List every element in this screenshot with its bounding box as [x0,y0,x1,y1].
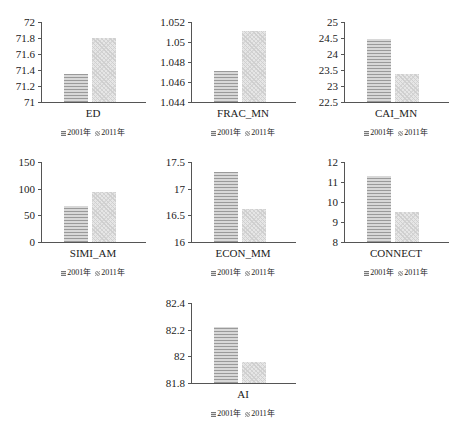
chart-connect: 89101112CONNECT2001年2011年 [303,140,453,280]
legend-item-2001: 2001年 [211,409,241,418]
y-tick [38,215,42,216]
bar-2001 [214,71,238,102]
bar-2011 [242,209,266,242]
legend-label-2001: 2001年 [217,268,241,277]
y-tick-label: 24.5 [302,32,338,44]
legend-swatch-2011-icon [245,131,250,136]
legend-label-2001: 2001年 [217,409,241,418]
y-tick [188,215,192,216]
y-tick [341,202,345,203]
y-tick [38,38,42,39]
legend-swatch-2011-icon [95,131,100,136]
legend-swatch-2011-icon [245,412,250,417]
legend-label-2011: 2011年 [251,409,275,418]
bar-2011 [395,74,419,102]
y-tick-label: 1.046 [149,76,185,88]
bar-2011 [92,192,116,242]
legend-item-2001: 2001年 [364,268,394,277]
plot-area [191,162,296,243]
chart-econ-mm: 1616.51717.5ECON_MM2001年2011年 [150,140,300,280]
legend-swatch-2001-icon [211,271,216,276]
y-tick [38,189,42,190]
y-tick-label: 72 [0,16,35,28]
y-tick [188,42,192,43]
y-tick-label: 12 [302,156,338,168]
chart-simi-am: 050100150SIMI_AM2001年2011年 [0,140,150,280]
x-axis-label: CAI_MN [344,107,448,119]
x-axis-label: ED [41,107,145,119]
legend-swatch-2011-icon [245,271,250,276]
y-tick [38,22,42,23]
x-axis-label: CONNECT [344,247,448,259]
y-tick-label: 82.2 [149,324,185,336]
bar-2011 [395,212,419,242]
legend-swatch-2001-icon [211,131,216,136]
y-tick-label: 9 [302,216,338,228]
legend: 2001年2011年 [41,126,145,137]
y-tick-label: 82 [149,350,185,362]
plot-area [344,22,449,103]
y-tick [188,62,192,63]
y-tick [341,102,345,103]
bar-2001 [367,39,391,102]
legend-swatch-2011-icon [398,131,403,136]
y-tick [341,86,345,87]
legend-swatch-2001-icon [211,412,216,417]
y-tick-label: 71.6 [0,48,35,60]
y-tick-label: 17 [149,183,185,195]
y-tick [341,70,345,71]
y-tick [341,242,345,243]
bar-2011 [92,38,116,102]
legend: 2001年2011年 [344,126,448,137]
legend: 2001年2011年 [191,407,295,418]
legend-swatch-2001-icon [61,131,66,136]
y-tick-label: 71.2 [0,80,35,92]
legend-item-2011: 2011年 [398,268,428,277]
y-tick [188,242,192,243]
y-tick-label: 50 [0,209,35,221]
y-tick-label: 71.8 [0,32,35,44]
y-tick-label: 0 [0,236,35,248]
chart-ed: 7171.271.471.671.872ED2001年2011年 [0,0,150,140]
x-axis-label: FRAC_MN [191,107,295,119]
y-tick [38,70,42,71]
legend-label-2001: 2001年 [370,268,394,277]
y-tick-label: 8 [302,236,338,248]
legend-item-2011: 2011年 [398,128,428,137]
y-tick-label: 16 [149,236,185,248]
legend: 2001年2011年 [41,266,145,277]
y-tick-label: 17.5 [149,156,185,168]
y-tick [188,102,192,103]
legend-swatch-2011-icon [95,271,100,276]
x-axis-label: AI [191,388,295,400]
y-tick-label: 82.4 [149,297,185,309]
y-tick [188,303,192,304]
legend-item-2001: 2001年 [61,128,91,137]
y-tick-label: 23.5 [302,64,338,76]
y-tick [188,82,192,83]
chart-cai-mn: 22.52323.52424.525CAI_MN2001年2011年 [303,0,453,140]
y-tick-label: 25 [302,16,338,28]
y-tick-label: 1.052 [149,16,185,28]
plot-area [344,162,449,243]
legend-label-2011: 2011年 [404,268,428,277]
legend-label-2011: 2011年 [251,128,275,137]
plot-area [41,162,146,243]
bar-2001 [214,327,238,383]
y-tick [341,222,345,223]
legend-label-2011: 2011年 [101,128,125,137]
y-tick [188,189,192,190]
legend-label-2001: 2001年 [370,128,394,137]
legend-item-2011: 2011年 [245,128,275,137]
legend-item-2011: 2011年 [245,409,275,418]
legend-label-2011: 2011年 [404,128,428,137]
y-tick-label: 1.048 [149,56,185,68]
legend-swatch-2011-icon [398,271,403,276]
y-tick [188,162,192,163]
y-tick [38,162,42,163]
y-tick-label: 22.5 [302,96,338,108]
y-tick-label: 23 [302,80,338,92]
bar-2011 [242,362,266,383]
legend-swatch-2001-icon [364,131,369,136]
y-tick-label: 24 [302,48,338,60]
